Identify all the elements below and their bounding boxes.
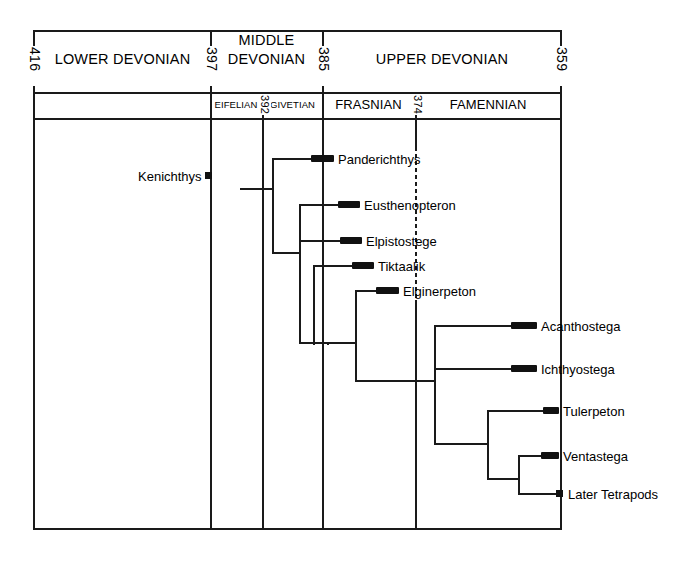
range-marker-panderichthys (311, 155, 334, 162)
branch-tetrapod-crown-vertical (434, 325, 436, 445)
taxon-label-acanthostega: Acanthostega (541, 320, 621, 333)
age-tick-374: 374 (412, 94, 424, 115)
taxon-label-tiktaalik: Tiktaalik (378, 260, 425, 273)
boundary-line-359-lower (560, 86, 562, 530)
range-marker-acanthostega (511, 322, 537, 329)
stratigraphic-cladogram: LOWER DEVONIAN MIDDLE DEVONIAN UPPER DEV… (0, 0, 682, 562)
branch-node-d-to-node-e (299, 342, 329, 344)
branch-node-d-e-connector (327, 342, 329, 345)
branch-tulerpeton-clade-vertical (487, 410, 489, 480)
age-tick-416: 416 (27, 46, 43, 72)
stage-label-eifelian: EIFELIAN (212, 99, 260, 111)
branch-root-stem (240, 188, 273, 190)
range-marker-later-tetrapods (556, 490, 563, 497)
branch-to-panderichthys (272, 158, 312, 160)
boundary-line-416-lower (33, 86, 35, 530)
branch-ventastega-clade-vertical (518, 455, 520, 495)
branch-to-ventastega-clade (487, 478, 519, 480)
age-tick-392: 392 (259, 94, 271, 115)
frame-stage-tree-divider (33, 118, 562, 120)
epoch-label-lower-devonian: LOWER DEVONIAN (45, 50, 200, 69)
branch-to-tulerpeton (487, 410, 544, 412)
branch-node-e-to-tetrapods (355, 380, 435, 382)
range-marker-tulerpeton (543, 407, 559, 414)
branch-to-acanthostega (434, 325, 512, 327)
stage-label-famennian: FAMENNIAN (418, 97, 558, 112)
branch-to-elpistostege (299, 240, 341, 242)
frame-bottom-border (33, 528, 562, 530)
taxon-label-elginerpeton: Elginerpeton (403, 285, 476, 298)
frame-epoch-stage-divider (33, 92, 562, 94)
boundary-line-385-lower (322, 86, 324, 530)
epoch-label-middle-devonian: MIDDLE DEVONIAN (220, 31, 313, 69)
branch-to-later-tetrapods (518, 493, 558, 495)
taxon-label-ichthyostega: Ichthyostega (541, 363, 615, 376)
boundary-line-374-dashed (415, 147, 417, 300)
range-marker-kenichthys (205, 172, 212, 179)
age-tick-397: 397 (204, 46, 220, 72)
age-tick-359: 359 (554, 46, 570, 72)
range-marker-eusthenopteron (338, 201, 360, 208)
taxon-label-tulerpeton: Tulerpeton (563, 405, 625, 418)
boundary-line-374-lower (415, 300, 417, 530)
boundary-line-397-lower (210, 86, 212, 530)
range-marker-ichthyostega (511, 365, 537, 372)
boundary-line-374-mid (415, 113, 417, 147)
range-marker-ventastega (541, 452, 559, 459)
range-marker-elginerpeton (376, 287, 399, 294)
taxon-label-eusthenopteron: Eusthenopteron (364, 199, 456, 212)
stage-label-frasnian: FRASNIAN (324, 97, 413, 112)
taxon-label-elpistostege: Elpistostege (366, 235, 437, 248)
branch-node-e-vertical (355, 290, 357, 382)
branch-to-eusthenopteron (299, 204, 339, 206)
branch-to-elginerpeton (355, 290, 377, 292)
branch-to-ichthyostega (434, 368, 512, 370)
branch-node-a-vertical (272, 158, 274, 254)
taxon-label-ventastega: Ventastega (563, 450, 628, 463)
branch-to-ventastega (518, 455, 542, 457)
epoch-label-upper-devonian: UPPER DEVONIAN (332, 50, 552, 69)
range-marker-tiktaalik (352, 262, 374, 269)
boundary-line-392-lower (262, 113, 264, 530)
range-marker-elpistostege (340, 237, 362, 244)
branch-node-a-to-node-b (272, 252, 300, 254)
age-tick-385: 385 (316, 46, 332, 72)
branch-node-c-vertical (299, 240, 301, 342)
stage-label-givetian: GIVETIAN (265, 99, 320, 111)
taxon-label-kenichthys: Kenichthys (138, 170, 202, 183)
branch-to-tiktaalik (313, 265, 353, 267)
branch-crown-to-tulerpeton-clade (434, 443, 488, 445)
branch-node-e-stem (327, 342, 357, 344)
taxon-label-panderichthys: Panderichthys (338, 153, 420, 166)
branch-node-d-vertical (313, 265, 315, 345)
taxon-label-later-tetrapods: Later Tetrapods (568, 488, 658, 501)
